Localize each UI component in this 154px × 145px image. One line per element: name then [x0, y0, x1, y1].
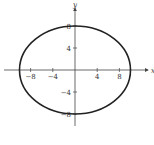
y-tick-label: −4 [61, 89, 72, 97]
x-tick-label: −8 [25, 73, 35, 81]
y-axis-label: y [72, 1, 78, 9]
x-tick-label: 4 [95, 73, 100, 81]
ellipse-plot: xy −8−44884−4−8 [0, 0, 154, 145]
x-tick-label: −4 [48, 73, 59, 81]
x-axis-label: x [151, 67, 154, 75]
x-tick-label: 8 [117, 73, 121, 81]
axes: xy [4, 1, 154, 126]
y-tick-label: 4 [67, 45, 72, 53]
